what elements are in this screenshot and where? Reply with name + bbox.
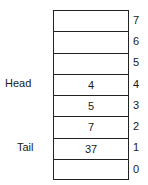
index-label-5: 5	[133, 56, 143, 68]
index-label-0: 0	[133, 163, 143, 175]
index-label-7: 7	[133, 14, 143, 26]
slot-7	[54, 11, 128, 32]
slot-4: 4	[54, 75, 128, 96]
head-pointer-label: Head	[5, 77, 31, 89]
slot-5	[54, 54, 128, 75]
slot-0	[54, 160, 128, 181]
index-label-6: 6	[133, 35, 143, 47]
slot-6	[54, 32, 128, 53]
index-label-3: 3	[133, 99, 143, 111]
index-label-2: 2	[133, 120, 143, 132]
array-stack: 4 5 7 37	[53, 10, 129, 180]
index-label-1: 1	[133, 141, 143, 153]
slot-value: 37	[85, 143, 97, 155]
index-label-4: 4	[133, 78, 143, 90]
slot-value: 4	[88, 79, 94, 91]
slot-value: 5	[88, 100, 94, 112]
slot-value: 7	[88, 121, 94, 133]
slot-3: 5	[54, 96, 128, 117]
tail-pointer-label: Tail	[17, 141, 34, 153]
slot-1: 37	[54, 139, 128, 160]
slot-2: 7	[54, 117, 128, 138]
